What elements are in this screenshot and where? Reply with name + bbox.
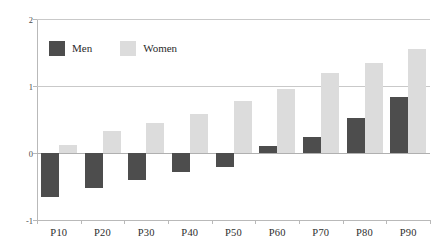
x-tick-mark-p60 bbox=[255, 220, 256, 224]
x-tick-mark-p80 bbox=[343, 220, 344, 224]
legend-label-men: Men bbox=[72, 43, 92, 54]
x-tick-mark-p40 bbox=[168, 220, 169, 224]
bar-men-p90 bbox=[390, 97, 408, 153]
bar-women-p30 bbox=[146, 123, 164, 153]
bar-men-p20 bbox=[85, 153, 103, 188]
y-tick-mark-0 bbox=[33, 153, 37, 154]
x-axis-line bbox=[37, 220, 430, 221]
bar-women-p90 bbox=[408, 49, 426, 153]
y-tick-mark-1 bbox=[33, 86, 37, 87]
y-axis-tick-label-2: 2 bbox=[3, 16, 33, 25]
y-axis-line bbox=[37, 19, 38, 220]
bar-women-p10 bbox=[59, 145, 77, 153]
bar-women-p80 bbox=[365, 63, 383, 153]
bar-women-p70 bbox=[321, 73, 339, 153]
bar-men-p70 bbox=[303, 137, 321, 153]
y-tick-mark-2 bbox=[33, 19, 37, 20]
y-axis-tick-label-1: 1 bbox=[3, 83, 33, 92]
legend-label-women: Women bbox=[143, 43, 177, 54]
bar-women-p20 bbox=[103, 131, 121, 153]
bar-chart: 2 1 0 -1 P10P20P30P40P50P60P70P80P90 Men… bbox=[0, 0, 447, 252]
x-tick-mark-p30 bbox=[124, 220, 125, 224]
bar-men-p50 bbox=[216, 153, 234, 167]
gridline-2 bbox=[37, 19, 430, 20]
x-tick-mark-p20 bbox=[81, 220, 82, 224]
x-tick-mark-p50 bbox=[212, 220, 213, 224]
legend-swatch-men-icon bbox=[49, 41, 65, 56]
x-tick-mark-p90 bbox=[386, 220, 387, 224]
x-tick-mark-p10 bbox=[37, 220, 38, 224]
x-tick-mark-end bbox=[430, 220, 431, 224]
bar-men-p60 bbox=[259, 146, 277, 153]
bar-men-p40 bbox=[172, 153, 190, 172]
legend: Men Women bbox=[49, 41, 177, 56]
legend-item-women[interactable]: Women bbox=[120, 41, 177, 56]
x-axis-label-p90: P90 bbox=[378, 228, 438, 239]
bar-men-p10 bbox=[41, 153, 59, 197]
legend-item-men[interactable]: Men bbox=[49, 41, 92, 56]
y-axis-tick-label-0: 0 bbox=[3, 150, 33, 159]
y-axis-tick-label-neg1: -1 bbox=[3, 217, 33, 226]
bar-women-p40 bbox=[190, 114, 208, 153]
legend-swatch-women-icon bbox=[120, 41, 136, 56]
bar-men-p80 bbox=[347, 118, 365, 153]
bar-women-p50 bbox=[234, 101, 252, 153]
bar-women-p60 bbox=[277, 89, 295, 153]
bar-men-p30 bbox=[128, 153, 146, 180]
x-tick-mark-p70 bbox=[299, 220, 300, 224]
